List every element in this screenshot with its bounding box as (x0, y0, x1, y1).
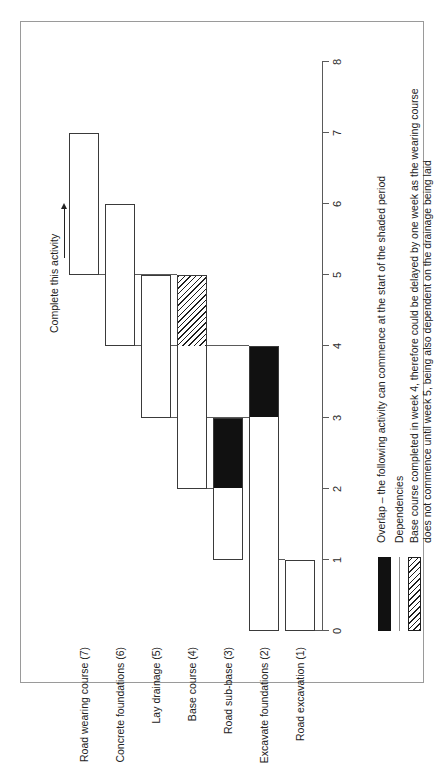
legend-swatch-overlap (378, 557, 391, 631)
legend-label-dependencies: Dependencies (393, 476, 405, 543)
gantt-chart-stage: 0 1 2 3 4 5 6 7 8 (20, 21, 424, 683)
legend-label-float-line2: does not commence until week 5, being al… (421, 160, 433, 543)
legend-label-overlap: Overlap – the following activity can com… (375, 176, 387, 543)
legend-label-float-line1: Base course completed in week 4, therefo… (408, 88, 420, 543)
legend-swatch-float (408, 557, 421, 631)
legend-swatch-dependencies (399, 557, 400, 631)
chart-legend: Overlap – the following activity can com… (20, 21, 424, 683)
